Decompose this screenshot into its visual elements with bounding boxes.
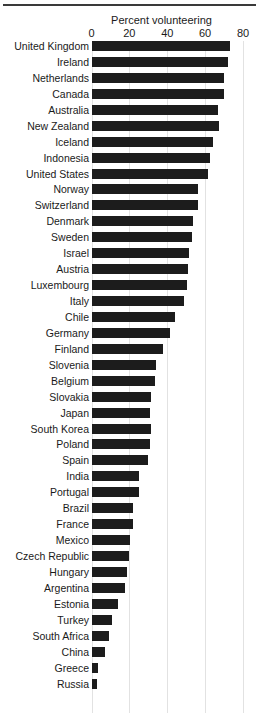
category-label: Chile <box>0 311 89 323</box>
bar-rows: United KingdomIrelandNetherlandsCanadaAu… <box>0 41 259 694</box>
top-divider-rule <box>3 4 256 6</box>
bar-row: Canada <box>0 89 259 105</box>
bar-row: United Kingdom <box>0 41 259 57</box>
bar <box>92 121 220 131</box>
bar-row: Ireland <box>0 57 259 73</box>
bar <box>92 296 185 306</box>
bar-row: Norway <box>0 184 259 200</box>
bar <box>92 392 152 402</box>
category-label: France <box>0 518 89 530</box>
category-label: Hungary <box>0 566 89 578</box>
category-label: Japan <box>0 407 89 419</box>
category-label: Austria <box>0 263 89 275</box>
category-label: Netherlands <box>0 72 89 84</box>
bar <box>92 280 188 290</box>
bar-row: Greece <box>0 663 259 679</box>
category-label: Denmark <box>0 215 89 227</box>
category-label: Argentina <box>0 582 89 594</box>
bar-row: Austria <box>0 264 259 280</box>
bar <box>92 424 152 434</box>
bar <box>92 471 139 481</box>
bar-row: Spain <box>0 455 259 471</box>
category-label: Australia <box>0 104 89 116</box>
category-label: Spain <box>0 454 89 466</box>
bar-row: Estonia <box>0 599 259 615</box>
bar <box>92 599 119 609</box>
bar-row: Slovakia <box>0 392 259 408</box>
bar-row: New Zealand <box>0 121 259 137</box>
bar-row: India <box>0 471 259 487</box>
bar-row: South Korea <box>0 424 259 440</box>
bar-row: Brazil <box>0 503 259 519</box>
x-axis-tick-labels: 020406080 <box>0 27 259 41</box>
bar-row: Chile <box>0 312 259 328</box>
bar <box>92 344 164 354</box>
bar-row: Slovenia <box>0 360 259 376</box>
bar <box>92 439 151 449</box>
bar-row: Australia <box>0 105 259 121</box>
category-label: Finland <box>0 343 89 355</box>
bar <box>92 503 134 513</box>
volunteering-bar-chart: Percent volunteering 020406080 United Ki… <box>0 0 259 717</box>
bar-row: Turkey <box>0 615 259 631</box>
bar <box>92 376 155 386</box>
bar-row: Russia <box>0 679 259 695</box>
category-label: Estonia <box>0 598 89 610</box>
x-tick-label-20: 20 <box>123 27 135 39</box>
bar <box>92 73 225 83</box>
category-label: Czech Republic <box>0 550 89 562</box>
category-label: Mexico <box>0 534 89 546</box>
bar-row: Mexico <box>0 535 259 551</box>
x-tick-label-40: 40 <box>161 27 173 39</box>
bar-row: Israel <box>0 248 259 264</box>
bar-row: Japan <box>0 408 259 424</box>
category-label: South Africa <box>0 630 89 642</box>
bar-row: China <box>0 647 259 663</box>
bar-row: United States <box>0 169 259 185</box>
category-label: Norway <box>0 183 89 195</box>
bar <box>92 264 189 274</box>
category-label: Russia <box>0 678 89 690</box>
category-label: Brazil <box>0 502 89 514</box>
category-label: Greece <box>0 662 89 674</box>
bar <box>92 216 193 226</box>
category-label: Indonesia <box>0 152 89 164</box>
category-label: Sweden <box>0 231 89 243</box>
category-label: Switzerland <box>0 199 89 211</box>
category-label: United States <box>0 168 89 180</box>
bar <box>92 184 198 194</box>
bar <box>92 89 225 99</box>
bar-row: Hungary <box>0 567 259 583</box>
category-label: Belgium <box>0 375 89 387</box>
category-label: South Korea <box>0 423 89 435</box>
bar <box>92 41 230 51</box>
category-label: Germany <box>0 327 89 339</box>
bar-row: Netherlands <box>0 73 259 89</box>
bar <box>92 615 113 625</box>
x-tick-label-0: 0 <box>88 27 94 39</box>
bar <box>92 551 130 561</box>
bar-row: Poland <box>0 439 259 455</box>
bar <box>92 328 171 338</box>
bar <box>92 312 175 322</box>
bar-row: Belgium <box>0 376 259 392</box>
category-label: Ireland <box>0 56 89 68</box>
bar-row: Denmark <box>0 216 259 232</box>
bar-row: Sweden <box>0 232 259 248</box>
bar <box>92 408 151 418</box>
bar-row: Germany <box>0 328 259 344</box>
bar-row: Czech Republic <box>0 551 259 567</box>
category-label: Italy <box>0 295 89 307</box>
bar <box>92 487 139 497</box>
bar <box>92 57 228 67</box>
bar <box>92 535 131 545</box>
bar <box>92 519 134 529</box>
bar <box>92 232 192 242</box>
bar <box>92 248 190 258</box>
bar <box>92 647 105 657</box>
category-label: Iceland <box>0 136 89 148</box>
category-label: Turkey <box>0 614 89 626</box>
bar <box>92 663 99 673</box>
bar-row: France <box>0 519 259 535</box>
bar <box>92 360 156 370</box>
